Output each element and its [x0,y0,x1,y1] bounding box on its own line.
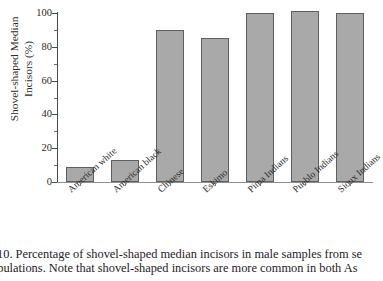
y-tick-label-20: 20 [42,143,53,154]
caption-line-1: 10. Percentage of shovel-shaped median i… [0,247,374,261]
y-tick-minor-30 [54,131,57,132]
y-tick-minor-50 [54,98,57,99]
y-axis-tick-labels: 020406080100 [28,13,52,182]
x-tick-6 [350,182,351,186]
y-tick-major-60 [52,81,57,82]
y-tick-minor-70 [54,64,57,65]
y-tick-minor-10 [54,165,57,166]
bar-chinese [156,30,184,182]
y-tick-label-80: 80 [42,42,53,53]
x-tick-0 [80,182,81,186]
bar-sioux-indians [336,13,364,182]
y-axis-title-line-1: Shovel-shaped Median [8,17,20,122]
y-tick-label-100: 100 [36,8,52,19]
y-tick-label-40: 40 [42,109,53,120]
y-tick-major-20 [52,148,57,149]
y-tick-major-80 [52,47,57,48]
x-tick-3 [215,182,216,186]
x-tick-4 [260,182,261,186]
y-tick-major-100 [52,13,57,14]
x-tick-2 [170,182,171,186]
x-axis-category-labels: American whiteAmerican blackChineseEskim… [0,183,374,241]
caption-line-2: opulations. Note that shovel-shaped inci… [0,261,374,275]
bar-eskimo [201,38,229,182]
y-tick-minor-90 [54,30,57,31]
y-tick-label-60: 60 [42,75,53,86]
bar-pueblo-indians [291,11,319,182]
x-tick-1 [125,182,126,186]
figure-caption: 10. Percentage of shovel-shaped median i… [0,247,374,275]
y-tick-major-40 [52,114,57,115]
bar-pima-indians [246,13,274,182]
x-tick-5 [305,182,306,186]
